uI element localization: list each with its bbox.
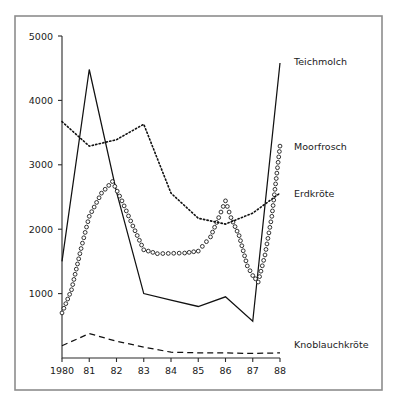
- data-marker: [77, 257, 81, 261]
- data-marker: [259, 269, 263, 273]
- data-marker: [64, 302, 68, 306]
- y-tick-label: 2000: [29, 224, 53, 235]
- data-marker: [213, 225, 217, 229]
- x-tick-label: 88: [274, 365, 286, 376]
- data-marker: [227, 210, 231, 214]
- data-marker: [276, 160, 280, 164]
- series-label-erdkröte: Erdkröte: [294, 188, 335, 199]
- data-marker: [73, 272, 77, 276]
- y-tick-label: 5000: [29, 31, 53, 42]
- data-marker: [95, 201, 99, 205]
- data-marker: [219, 210, 223, 214]
- data-marker: [78, 252, 82, 256]
- data-marker: [275, 171, 279, 175]
- data-marker: [237, 234, 241, 238]
- series-label-moorfrosch: Moorfrosch: [294, 141, 347, 152]
- y-tick-label: 4000: [29, 95, 53, 106]
- series-label-teichmolch: Teichmolch: [293, 56, 347, 67]
- data-marker: [120, 199, 124, 203]
- x-tick-label: 87: [247, 365, 259, 376]
- data-marker: [240, 244, 244, 248]
- data-marker: [205, 240, 209, 244]
- data-marker: [209, 235, 213, 239]
- data-marker: [241, 249, 245, 253]
- data-marker: [83, 231, 87, 235]
- data-marker: [142, 248, 146, 252]
- data-marker: [264, 248, 268, 252]
- data-marker: [76, 262, 80, 266]
- data-marker: [183, 251, 187, 255]
- data-marker: [133, 229, 137, 233]
- data-marker: [217, 216, 221, 220]
- data-marker: [113, 184, 117, 188]
- data-marker: [140, 243, 144, 247]
- data-marker: [233, 225, 237, 229]
- data-marker: [256, 280, 260, 284]
- line-chart-svg: 10002000300040005000 1980818283848586878…: [0, 0, 397, 410]
- data-marker: [265, 242, 269, 246]
- data-marker: [129, 219, 133, 223]
- x-tick-label: 85: [192, 365, 204, 376]
- data-marker: [244, 259, 248, 263]
- data-marker: [122, 204, 126, 208]
- data-marker: [211, 230, 215, 234]
- data-marker: [277, 155, 281, 159]
- data-marker: [103, 187, 107, 191]
- data-marker: [251, 274, 255, 278]
- data-marker: [71, 283, 75, 287]
- data-marker: [224, 199, 228, 203]
- data-marker: [85, 225, 89, 229]
- x-tick-label: 81: [83, 365, 95, 376]
- data-marker: [87, 214, 91, 218]
- data-marker: [131, 224, 135, 228]
- data-marker: [155, 252, 159, 256]
- data-marker: [62, 306, 66, 310]
- data-marker: [235, 229, 239, 233]
- data-marker: [60, 311, 64, 315]
- data-marker: [277, 150, 281, 154]
- x-tick-label: 82: [110, 365, 122, 376]
- x-tick-label: 1980: [50, 365, 74, 376]
- data-marker: [151, 250, 155, 254]
- data-marker: [70, 288, 74, 292]
- data-marker: [248, 269, 252, 273]
- data-marker: [86, 220, 90, 224]
- data-marker: [271, 209, 275, 213]
- x-tick-label: 86: [219, 365, 231, 376]
- data-marker: [258, 275, 262, 279]
- data-marker: [200, 244, 204, 248]
- data-marker: [137, 238, 141, 242]
- data-marker: [267, 231, 271, 235]
- data-marker: [66, 297, 70, 301]
- data-marker: [172, 251, 176, 255]
- x-tick-label: 83: [138, 365, 150, 376]
- data-marker: [82, 236, 86, 240]
- data-marker: [166, 252, 170, 256]
- data-marker: [79, 247, 83, 251]
- data-marker: [274, 182, 278, 186]
- data-marker: [90, 210, 94, 214]
- x-tick-label: 84: [165, 365, 177, 376]
- data-marker: [81, 241, 85, 245]
- data-marker: [262, 258, 266, 262]
- data-marker: [107, 184, 111, 188]
- data-marker: [276, 166, 280, 170]
- data-marker: [245, 264, 249, 268]
- data-marker: [146, 249, 150, 253]
- data-marker: [243, 254, 247, 258]
- data-marker: [269, 220, 273, 224]
- data-marker: [229, 216, 233, 220]
- data-marker: [111, 180, 115, 184]
- data-marker: [177, 251, 181, 255]
- data-marker: [115, 189, 119, 193]
- data-marker: [254, 277, 258, 281]
- y-tick-label: 3000: [29, 159, 53, 170]
- data-marker: [74, 267, 78, 271]
- data-marker: [68, 292, 72, 296]
- y-tick-label: 1000: [29, 288, 53, 299]
- data-marker: [118, 194, 122, 198]
- chart-figure: 10002000300040005000 1980818283848586878…: [0, 0, 397, 410]
- data-marker: [260, 264, 264, 268]
- data-marker: [187, 250, 191, 254]
- data-marker: [271, 204, 275, 208]
